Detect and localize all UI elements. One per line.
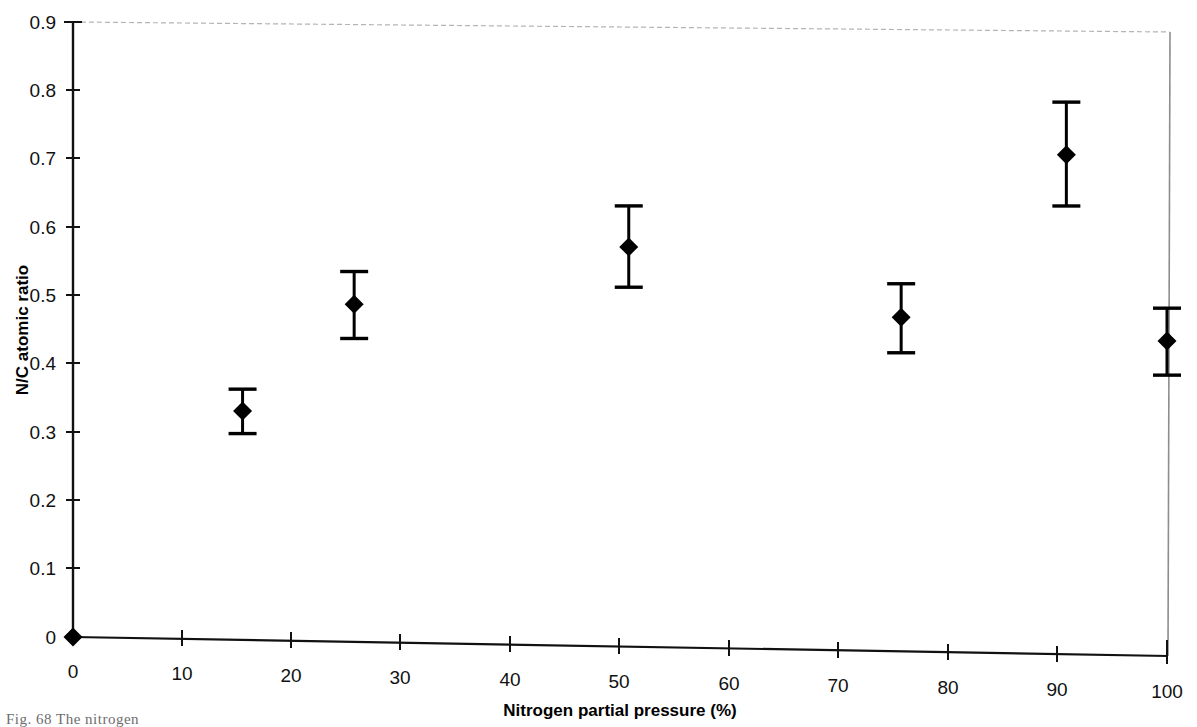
y-tick-label: 0.6 [30, 217, 56, 238]
y-tick-label: 0.5 [30, 285, 56, 306]
y-tick-label: 0.9 [30, 12, 56, 33]
data-point [64, 628, 83, 647]
data-point [1052, 102, 1080, 206]
data-point [615, 206, 643, 287]
data-point [340, 272, 368, 339]
data-marker-diamond [1057, 145, 1076, 164]
x-tick-label: 20 [280, 665, 301, 686]
x-axis-tick-labels: 0 10 20 30 40 50 60 70 80 90 100 [68, 661, 1183, 702]
y-tick-label: 0.8 [30, 80, 56, 101]
scatter-chart: 0.9 0.8 0.7 0.6 0.5 0.4 0.3 0.2 0.1 0 [0, 0, 1197, 727]
data-series-layer [64, 102, 1182, 646]
x-tick-label: 50 [608, 671, 629, 692]
y-tick-label: 0.7 [30, 148, 56, 169]
x-tick-label: 60 [718, 673, 739, 694]
y-tick-label: 0.1 [30, 558, 56, 579]
data-marker-diamond [1158, 331, 1177, 350]
x-axis-title: Nitrogen partial pressure (%) [503, 701, 736, 720]
y-axis-title: N/C atomic ratio [13, 265, 32, 395]
x-tick-label: 100 [1151, 681, 1183, 702]
plot-top-border [73, 22, 1170, 32]
x-tick-label: 80 [937, 677, 958, 698]
data-point [887, 284, 915, 353]
x-tick-label: 10 [171, 663, 192, 684]
data-point [1153, 308, 1181, 375]
x-tick-label: 30 [389, 667, 410, 688]
data-point [229, 389, 257, 433]
y-tick-label: 0.2 [30, 490, 56, 511]
y-axis-tick-labels: 0.9 0.8 0.7 0.6 0.5 0.4 0.3 0.2 0.1 0 [30, 12, 57, 648]
axis-frame [73, 22, 1170, 656]
data-marker-diamond [619, 237, 638, 256]
y-tick-label: 0.4 [30, 353, 57, 374]
x-tick-label: 0 [68, 661, 79, 682]
x-tick-label: 70 [827, 675, 848, 696]
x-tick-label: 40 [499, 669, 520, 690]
data-marker-diamond [892, 308, 911, 327]
figure-container: 0.9 0.8 0.7 0.6 0.5 0.4 0.3 0.2 0.1 0 [0, 0, 1197, 727]
figure-caption: Fig. 68 The nitrogen [6, 706, 139, 727]
x-axis-line [73, 637, 1168, 656]
data-marker-diamond [64, 628, 83, 647]
y-tick-label: 0 [45, 627, 56, 648]
data-marker-diamond [233, 402, 252, 421]
data-marker-diamond [345, 295, 364, 314]
x-tick-label: 90 [1046, 679, 1067, 700]
y-tick-label: 0.3 [30, 422, 56, 443]
